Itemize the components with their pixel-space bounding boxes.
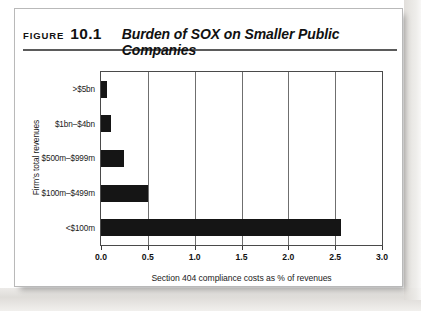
x-axis-tick-label: 1.5 [236, 252, 248, 262]
x-axis-title: Section 404 compliance costs as % of rev… [101, 273, 382, 283]
page-shadow-bottom [0, 288, 421, 311]
x-axis-tick [288, 246, 289, 250]
x-axis-tick [148, 246, 149, 250]
x-axis-tick-label: 2.5 [329, 252, 341, 262]
chart-plot-area: >$5bn$1bn–$4bn$500m–$999m$100m–$499m<$10… [100, 71, 383, 246]
x-axis-tick [242, 246, 243, 250]
x-axis-tick [101, 246, 102, 250]
x-axis-tick [335, 246, 336, 250]
figure-screenshot: Figure 10.1 Burden of SOX on Smaller Pub… [0, 0, 421, 311]
bar [101, 185, 148, 202]
x-axis-tick [195, 246, 196, 250]
x-axis-tick-label: 0.5 [142, 252, 154, 262]
y-axis-category-label: $100m–$499m [41, 189, 95, 198]
bar-row: $1bn–$4bn [101, 107, 382, 142]
figure-label-word: Figure [23, 30, 64, 41]
bar [101, 115, 111, 132]
figure-number: 10.1 [70, 25, 101, 43]
y-axis-category-label: $1bn–$4bn [55, 119, 95, 128]
figure-header: Figure 10.1 Burden of SOX on Smaller Pub… [23, 25, 397, 51]
bar-row: $100m–$499m [101, 176, 382, 211]
y-axis-category-label: >$5bn [73, 85, 96, 94]
x-axis-tick-label: 2.0 [282, 252, 294, 262]
x-axis-tick-label: 0.0 [95, 252, 107, 262]
bar-row: <$100m [101, 210, 382, 245]
bar [101, 81, 107, 98]
figure-card: Figure 10.1 Burden of SOX on Smaller Pub… [14, 8, 403, 287]
x-axis-tick-label: 3.0 [376, 252, 388, 262]
bar-row: $500m–$999m [101, 141, 382, 176]
x-axis-tick-label: 1.0 [189, 252, 201, 262]
bar [101, 150, 124, 167]
figure-title: Burden of SOX on Smaller Public Companie… [122, 26, 397, 58]
bar [101, 219, 341, 236]
y-axis-category-label: <$100m [66, 223, 95, 232]
x-axis-tick [382, 246, 383, 250]
page-shadow-right [404, 0, 421, 300]
y-axis-category-label: $500m–$999m [41, 154, 95, 163]
bar-row: >$5bn [101, 72, 382, 107]
